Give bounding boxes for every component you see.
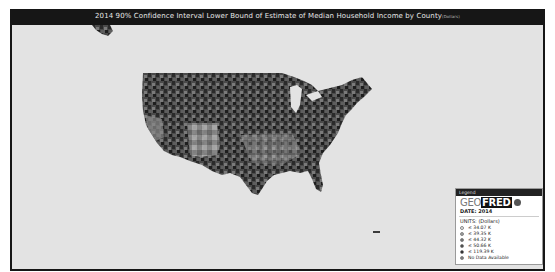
geofred-logo: GEOFRED xyxy=(456,197,542,208)
map-legend: Legend GEOFRED DATE: 2014 UNITS: (Dollar… xyxy=(455,188,543,265)
hawaii-shape xyxy=(373,231,380,233)
alaska-shape xyxy=(92,25,113,36)
legend-swatch-icon xyxy=(460,250,464,254)
legend-swatch-icon xyxy=(460,226,464,230)
map-canvas[interactable]: Legend GEOFRED DATE: 2014 UNITS: (Dollar… xyxy=(12,25,543,269)
map-title-text: 2014 90% Confidence Interval Lower Bound… xyxy=(95,12,442,20)
logo-geo-text: GEO xyxy=(460,197,481,208)
legend-item: No Data Available xyxy=(456,255,542,261)
legend-swatch-icon xyxy=(460,232,464,236)
legend-header: Legend xyxy=(456,189,542,196)
legend-divider xyxy=(459,216,539,217)
map-title: 2014 90% Confidence Interval Lower Bound… xyxy=(10,9,545,24)
legend-swatch-icon xyxy=(460,256,464,260)
map-title-units: (Dollars) xyxy=(442,14,460,19)
globe-icon xyxy=(514,199,521,206)
legend-units: UNITS: (Dollars) xyxy=(456,218,542,225)
legend-swatch-icon xyxy=(460,238,464,242)
map-panel: 2014 90% Confidence Interval Lower Bound… xyxy=(10,9,545,271)
legend-date: DATE: 2014 xyxy=(456,208,542,215)
legend-item-label: No Data Available xyxy=(468,255,509,261)
contiguous-us-shape[interactable] xyxy=(142,73,372,195)
legend-swatch-icon xyxy=(460,244,464,248)
logo-fred-text: FRED xyxy=(481,197,511,208)
